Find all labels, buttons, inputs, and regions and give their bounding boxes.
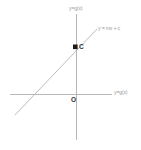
function-line (15, 29, 97, 115)
origin-label: O (71, 97, 76, 104)
line-equation-label: y = mx + c (98, 26, 120, 31)
graph-canvas (0, 0, 141, 150)
y-axis-label: y=g(x) (69, 6, 82, 11)
point-c-label: C (79, 44, 84, 51)
linear-function-graph: y=g(x) y=g(x) y = mx + c C O (0, 0, 141, 150)
x-axis-label: y=g(x) (114, 90, 127, 95)
point-c-marker (73, 45, 78, 50)
